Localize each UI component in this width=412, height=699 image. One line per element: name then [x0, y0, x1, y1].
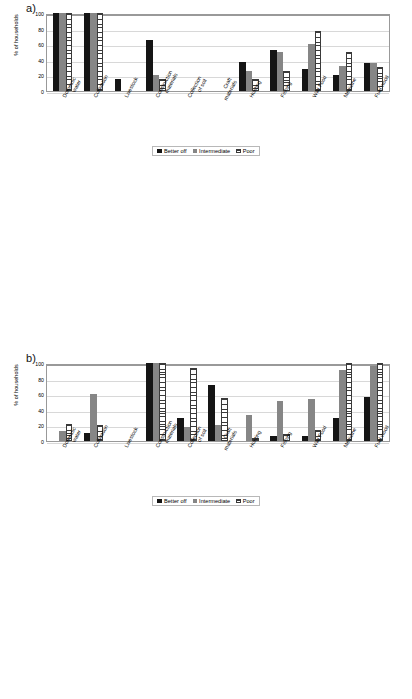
- bar-group-container: [47, 365, 389, 441]
- x-tick-cell: Medicine: [327, 444, 358, 496]
- x-tick-cell: Craftmaterials: [202, 444, 233, 496]
- bar-group: [265, 15, 296, 91]
- y-axis-ticks: 100806040200: [22, 364, 44, 442]
- plot-box: [46, 14, 390, 92]
- plot-area: % of households100806040200Domesticwater…: [0, 364, 412, 456]
- legend-swatch-better-off: [157, 499, 162, 504]
- figure-sheet: a)% of households100806040200Domesticwat…: [0, 0, 412, 699]
- bar-group: [234, 365, 265, 441]
- x-tick-cell: Constructionmaterials: [140, 444, 171, 496]
- legend-label: Intermediate: [199, 148, 230, 154]
- x-axis-labels: DomesticwaterCultivationLivestockConstru…: [46, 94, 390, 146]
- legend-swatch-intermediate: [193, 149, 198, 154]
- x-axis-labels: DomesticwaterCultivationLivestockConstru…: [46, 444, 390, 496]
- y-tick-label: 100: [24, 12, 44, 17]
- plot-area: % of households100806040200Domesticwater…: [0, 14, 412, 106]
- x-tick-cell: Livestock: [109, 444, 140, 496]
- y-tick-label: 60: [24, 393, 44, 398]
- y-axis-label: % of households: [13, 355, 19, 415]
- legend-label: Better off: [164, 148, 187, 154]
- y-tick-label: 80: [24, 27, 44, 32]
- legend-swatch-poor: [236, 149, 241, 154]
- legend-item: Poor: [236, 148, 254, 154]
- chart-panel-a: a)% of households100806040200Domesticwat…: [0, 0, 412, 175]
- y-tick-label: 20: [24, 74, 44, 79]
- legend-item: Intermediate: [193, 148, 231, 154]
- x-tick-cell: Collectionof soil: [171, 94, 202, 146]
- y-tick-label: 80: [24, 377, 44, 382]
- y-axis-label: % of households: [13, 5, 19, 65]
- y-tick-label: 20: [24, 424, 44, 429]
- x-tick-cell: Fuel wood: [359, 94, 390, 146]
- legend-swatch-better-off: [157, 149, 162, 154]
- y-tick-label: 40: [24, 58, 44, 63]
- bar-group: [265, 365, 296, 441]
- x-tick-cell: Collectionof soil: [171, 444, 202, 496]
- x-tick-cell: Wild Food: [296, 444, 327, 496]
- x-tick-cell: Constructionmaterials: [140, 94, 171, 146]
- y-axis-ticks: 100806040200: [22, 14, 44, 92]
- y-tick-label: 0: [24, 440, 44, 445]
- y-tick-label: 60: [24, 43, 44, 48]
- x-tick-cell: Cultivation: [77, 94, 108, 146]
- legend-item: Poor: [236, 498, 254, 504]
- legend-item: Better off: [157, 498, 186, 504]
- legend-swatch-poor: [236, 499, 241, 504]
- x-tick-cell: Fishing: [265, 94, 296, 146]
- x-tick-cell: Hunting: [234, 444, 265, 496]
- y-tick-label: 0: [24, 90, 44, 95]
- bar-group-container: [47, 15, 389, 91]
- x-tick-cell: Domesticwater: [46, 94, 77, 146]
- legend-label: Poor: [243, 148, 255, 154]
- chart-legend: Better offIntermediatePoor: [0, 496, 412, 506]
- y-tick-label: 40: [24, 408, 44, 413]
- x-tick-cell: Wild Food: [296, 94, 327, 146]
- bar-group: [234, 15, 265, 91]
- bar-better-off: [115, 79, 122, 91]
- x-tick-cell: Livestock: [109, 94, 140, 146]
- legend-swatch-intermediate: [193, 499, 198, 504]
- legend-label: Intermediate: [199, 498, 230, 504]
- plot-box: [46, 364, 390, 442]
- x-tick-cell: Medicine: [327, 94, 358, 146]
- legend-item: Intermediate: [193, 498, 231, 504]
- y-tick-label: 100: [24, 362, 44, 367]
- x-tick-cell: Cultivation: [77, 444, 108, 496]
- legend-label: Poor: [243, 498, 255, 504]
- x-tick-cell: Hunting: [234, 94, 265, 146]
- x-tick-cell: Domesticwater: [46, 444, 77, 496]
- chart-panel-b: b)% of households100806040200Domesticwat…: [0, 350, 412, 525]
- chart-legend: Better offIntermediatePoor: [0, 146, 412, 156]
- legend-box: Better offIntermediatePoor: [152, 146, 259, 156]
- x-tick-cell: Fishing: [265, 444, 296, 496]
- x-tick-cell: Fuel wood: [359, 444, 390, 496]
- legend-item: Better off: [157, 148, 186, 154]
- x-tick-cell: Craftmaterials: [202, 94, 233, 146]
- legend-box: Better offIntermediatePoor: [152, 496, 259, 506]
- legend-label: Better off: [164, 498, 187, 504]
